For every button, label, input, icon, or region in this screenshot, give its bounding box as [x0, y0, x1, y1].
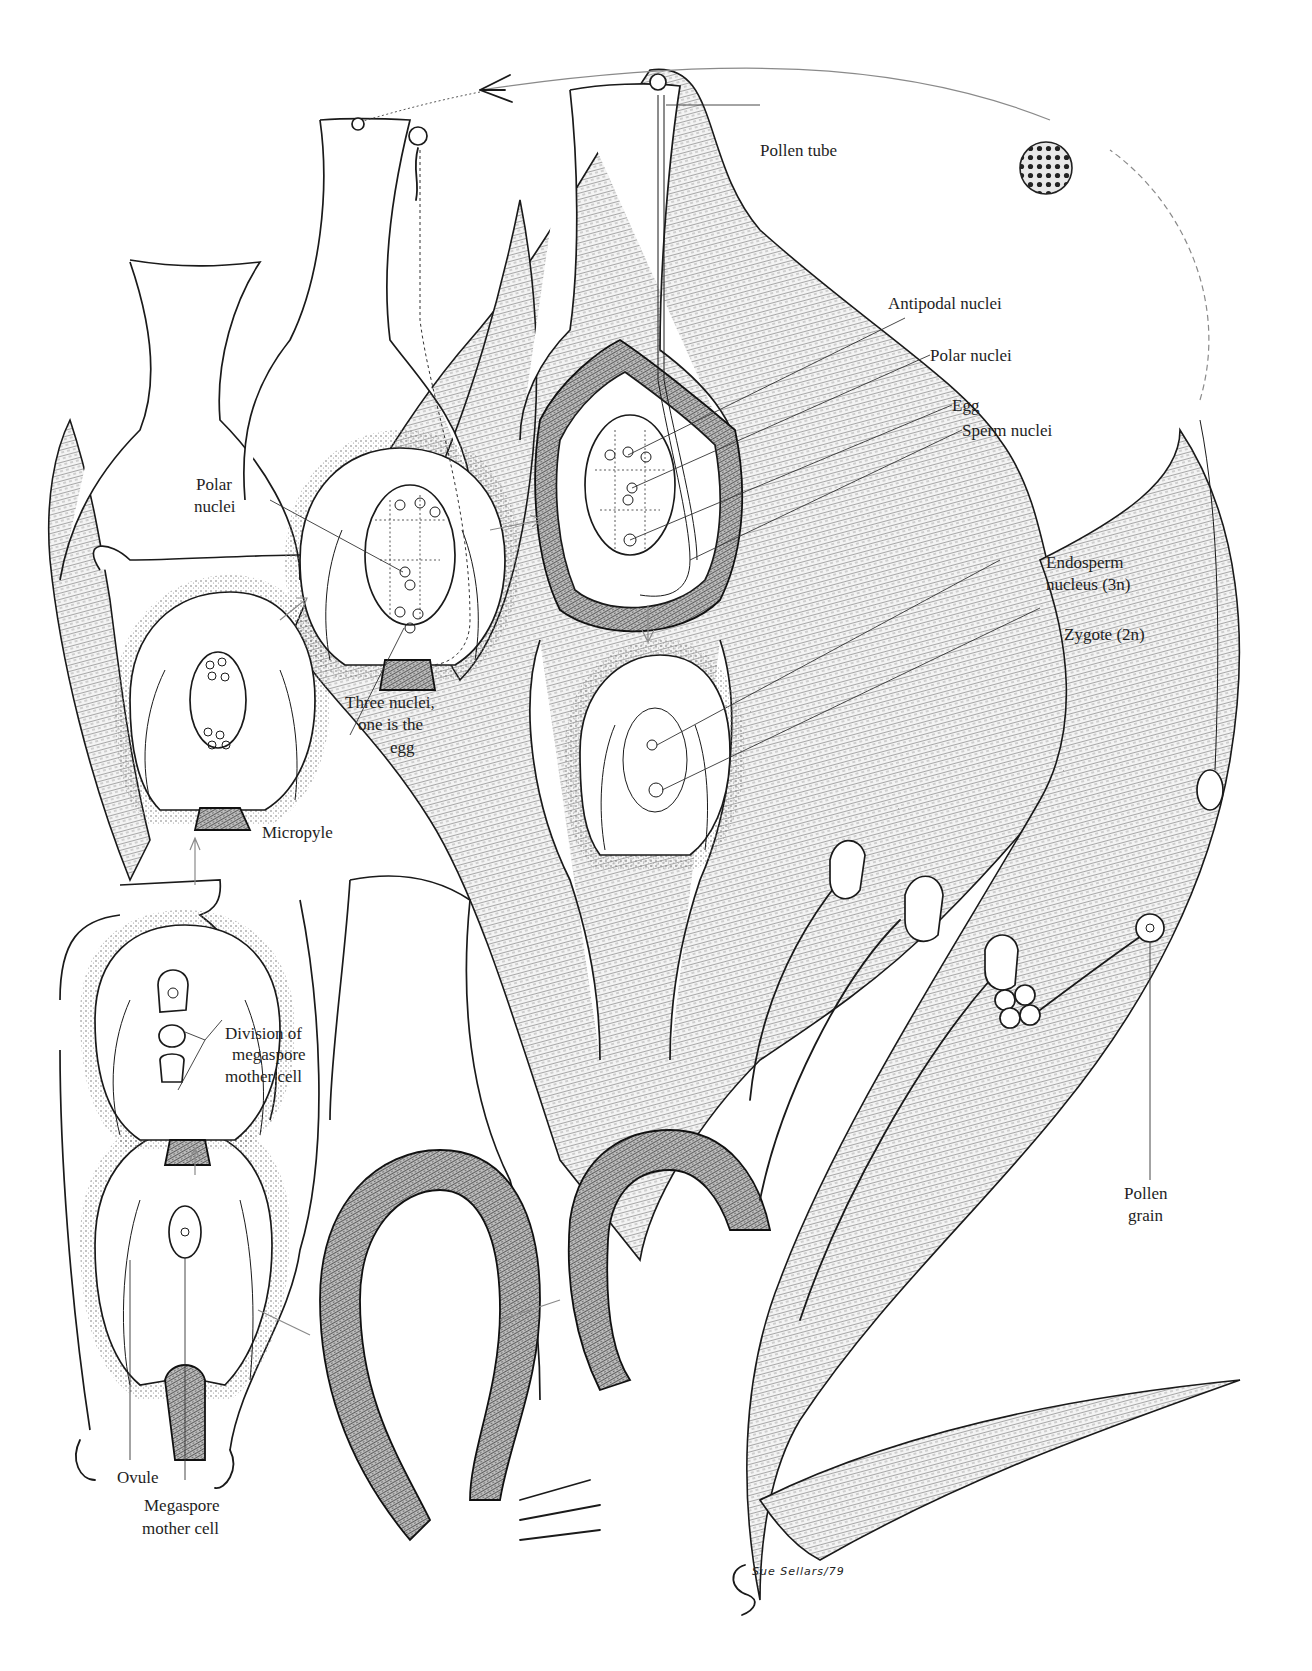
- label-polar-nuclei-right: Polar nuclei: [930, 345, 1012, 366]
- pollen-grain-upper: [1197, 770, 1223, 810]
- label-antipodal-nuclei: Antipodal nuclei: [888, 293, 1002, 314]
- life-cycle-illustration: Pollen tube Antipodal nuclei Polar nucle…: [0, 0, 1312, 1671]
- label-egg: Egg: [952, 395, 979, 416]
- anther-2: [905, 876, 943, 941]
- label-ovule: Ovule: [117, 1467, 159, 1488]
- label-sperm-nuclei: Sperm nuclei: [962, 420, 1052, 441]
- label-pollen-tube: Pollen tube: [760, 140, 837, 161]
- anther-3: [985, 935, 1018, 990]
- illustration-canvas: [0, 0, 1312, 1671]
- airborne-pollen-grain: [1020, 142, 1072, 194]
- pollen-grain-lower: [1136, 914, 1164, 942]
- artist-signature: Sue Sellars/79: [752, 1565, 845, 1578]
- label-zygote: Zygote (2n): [1064, 624, 1145, 645]
- label-micropyle: Micropyle: [262, 822, 333, 843]
- anther-1: [830, 841, 865, 899]
